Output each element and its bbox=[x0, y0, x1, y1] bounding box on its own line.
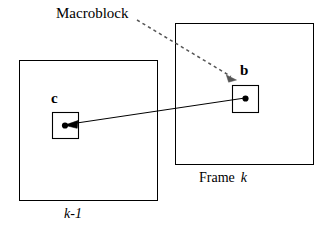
previous-frame-label: k-1 bbox=[64, 207, 82, 221]
current-frame-rect bbox=[176, 24, 314, 165]
macroblock-b-center-dot bbox=[242, 95, 248, 101]
macroblock-callout-arrowhead bbox=[226, 75, 236, 82]
macroblock-callout-line bbox=[137, 20, 231, 77]
current-frame-label: Framek bbox=[199, 171, 247, 185]
current-frame-label-index: k bbox=[241, 170, 247, 185]
previous-frame-rect bbox=[20, 61, 158, 201]
diagram-vector-layer bbox=[0, 0, 330, 233]
current-frame-label-prefix: Frame bbox=[199, 170, 235, 185]
macroblock-c-center-dot bbox=[62, 122, 68, 128]
block-c-label: c bbox=[51, 91, 58, 106]
diagram-canvas: Macroblock b c Framek k-1 bbox=[0, 0, 330, 233]
block-b-label: b bbox=[240, 63, 248, 78]
macroblock-label: Macroblock bbox=[56, 6, 128, 21]
